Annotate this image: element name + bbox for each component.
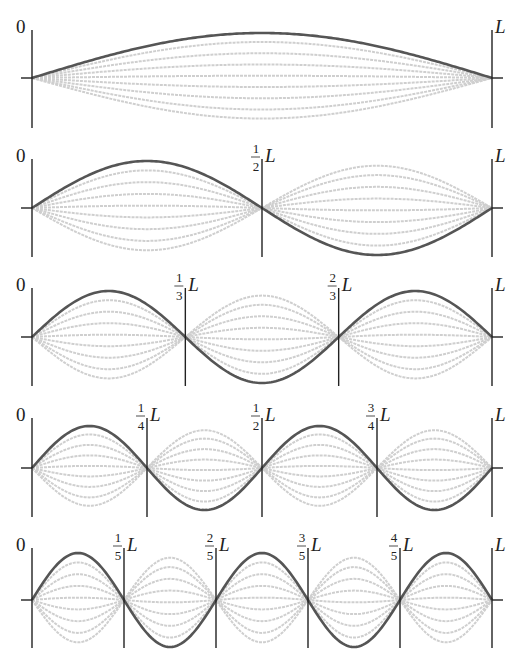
standing-waves-diagram: Standing wave modes on a string fixed at… [0, 0, 516, 665]
ghost-wave-curve [32, 586, 492, 614]
node-label-L: L [218, 534, 230, 555]
end-label-L: L [494, 16, 506, 37]
fraction-denominator: 5 [391, 548, 398, 563]
ghost-wave-curve [32, 296, 492, 379]
node-label-L: L [126, 534, 138, 555]
ghost-wave-curve [32, 312, 492, 363]
node-label-L: L [264, 145, 276, 166]
node-label-L: L [379, 404, 391, 425]
fraction-numerator: 1 [253, 400, 260, 415]
ghost-wave-curve [32, 78, 492, 119]
node-label-L: L [341, 274, 353, 295]
fraction-numerator: 1 [253, 141, 260, 156]
fraction-numerator: 2 [329, 270, 336, 285]
fraction-denominator: 5 [299, 548, 306, 563]
ghost-wave-curve [32, 328, 492, 346]
ghost-wave-curve [32, 78, 492, 98]
fraction-denominator: 4 [138, 418, 145, 433]
node-label-L: L [310, 534, 322, 555]
fraction-numerator: 2 [207, 530, 214, 545]
fraction-numerator: 3 [299, 530, 306, 545]
origin-label: 0 [16, 145, 26, 166]
node-label-L: L [149, 404, 161, 425]
origin-label: 0 [16, 404, 26, 425]
end-label-L: L [494, 274, 506, 295]
fraction-denominator: 4 [368, 418, 375, 433]
end-label-L: L [494, 404, 506, 425]
fraction-numerator: 1 [138, 400, 145, 415]
ghost-wave-curve [32, 558, 492, 643]
ghost-wave-curve [32, 78, 492, 87]
fraction-denominator: 2 [253, 159, 260, 174]
fraction-numerator: 1 [176, 270, 183, 285]
ghost-wave-curve [32, 567, 492, 633]
fraction-numerator: 1 [115, 530, 122, 545]
ghost-wave-curve [32, 76, 492, 78]
node-label-L: L [187, 274, 199, 295]
node-label-L: L [402, 534, 414, 555]
fraction-numerator: 4 [391, 530, 398, 545]
end-label-L: L [494, 145, 506, 166]
ghost-wave-curve [32, 574, 492, 626]
ghost-wave-curve [32, 598, 492, 603]
fraction-denominator: 5 [115, 548, 122, 563]
end-label-L: L [494, 534, 506, 555]
fraction-denominator: 2 [253, 418, 260, 433]
origin-label: 0 [16, 534, 26, 555]
fraction-denominator: 3 [176, 288, 183, 303]
ghost-wave-curve [32, 591, 492, 610]
origin-label: 0 [16, 16, 26, 37]
fraction-numerator: 3 [368, 400, 375, 415]
fraction-denominator: 3 [329, 288, 336, 303]
fraction-denominator: 5 [207, 548, 214, 563]
ghost-wave-curve [32, 335, 492, 340]
origin-label: 0 [16, 274, 26, 295]
modes-svg: 0L0L12L0L13L23L0L14L12L34L0L15L25L35L45L [0, 0, 516, 665]
ghost-wave-curve [32, 305, 492, 369]
node-label-L: L [264, 404, 276, 425]
